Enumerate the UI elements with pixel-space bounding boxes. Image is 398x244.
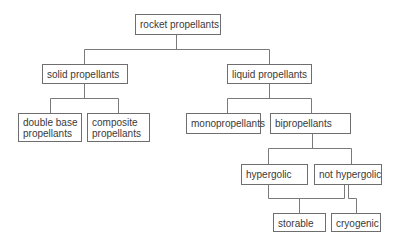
node-monopropellants: monopropellants	[186, 113, 261, 134]
node-cryogenic: cryogenic	[331, 213, 381, 232]
node-label: monopropellants	[191, 118, 265, 129]
node-label-line-2: propellants	[23, 128, 77, 139]
node-label-line-1: composite	[92, 117, 145, 128]
node-label-line-2: propellants	[92, 128, 145, 139]
node-solid-propellants: solid propellants	[42, 64, 128, 84]
node-label: rocket propellants	[140, 19, 219, 30]
node-bipropellants: bipropellants	[270, 113, 351, 134]
node-not-hypergolic: not hypergolic	[314, 164, 382, 185]
node-label: cryogenic	[336, 218, 379, 229]
node-label: not hypergolic	[319, 169, 381, 180]
node-label: solid propellants	[47, 69, 119, 80]
node-label: bipropellants	[275, 118, 332, 129]
node-label-line-1: double base	[23, 117, 77, 128]
node-storable: storable	[273, 213, 326, 232]
node-rocket-propellants: rocket propellants	[135, 14, 221, 35]
node-hypergolic: hypergolic	[241, 164, 308, 185]
node-liquid-propellants: liquid propellants	[227, 64, 312, 84]
node-label: storable	[278, 218, 314, 229]
node-label: hypergolic	[246, 169, 292, 180]
node-label: liquid propellants	[232, 69, 307, 80]
node-composite-propellants: composite propellants	[87, 113, 150, 142]
node-double-base-propellants: double base propellants	[18, 113, 82, 142]
